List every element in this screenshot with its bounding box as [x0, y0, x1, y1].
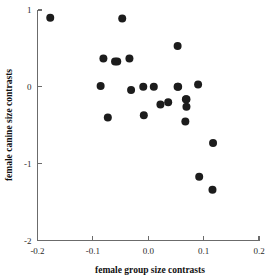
data-point — [195, 173, 203, 181]
y-tick-label: 1 — [27, 5, 32, 15]
y-tick-label: -1 — [24, 159, 32, 169]
y-axis-tick-labels: 10-1-2 — [24, 5, 32, 246]
data-point — [174, 42, 182, 50]
x-tick-label: 0.2 — [253, 246, 264, 256]
data-point — [127, 86, 135, 94]
data-point — [182, 103, 190, 111]
data-point — [111, 57, 119, 65]
x-axis-tick-labels: -0.2-0.10.00.10.2 — [30, 246, 264, 256]
data-point — [150, 83, 158, 91]
data-point — [164, 98, 172, 106]
x-axis-title: female group size contrasts — [95, 265, 205, 275]
data-point — [194, 81, 202, 89]
x-tick-label: -0.1 — [86, 246, 100, 256]
scatter-plot-figure: -0.2-0.10.00.10.2 10-1-2 female group si… — [0, 0, 271, 280]
data-point — [209, 139, 217, 147]
y-tick-label: -2 — [24, 236, 32, 246]
data-point — [156, 101, 164, 109]
data-point — [182, 95, 190, 103]
axis-spines — [38, 10, 260, 241]
y-axis-ticks — [38, 10, 43, 241]
data-point — [174, 83, 182, 91]
data-point — [139, 83, 147, 91]
data-point — [99, 54, 107, 62]
data-point — [181, 117, 189, 125]
x-tick-label: 0.1 — [198, 246, 209, 256]
x-tick-label: 0.0 — [143, 246, 155, 256]
data-point — [140, 111, 148, 119]
data-point — [97, 82, 105, 90]
plot-canvas: -0.2-0.10.00.10.2 10-1-2 female group si… — [0, 0, 271, 280]
data-point — [104, 114, 112, 122]
data-point — [125, 54, 133, 62]
data-point — [208, 186, 216, 194]
x-axis-ticks — [38, 236, 260, 241]
data-point — [118, 14, 126, 22]
y-tick-label: 0 — [27, 82, 32, 92]
data-point — [46, 14, 54, 22]
y-axis-title: female canine size contrasts — [4, 69, 14, 181]
x-tick-label: -0.2 — [30, 246, 44, 256]
data-points-layer — [46, 14, 217, 194]
